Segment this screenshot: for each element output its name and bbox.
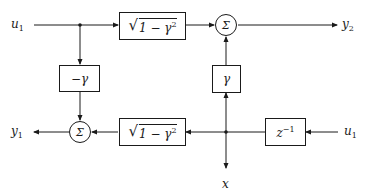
top-gain-block: √ 1 − γ2 xyxy=(119,12,186,40)
output-y1-label: y1 xyxy=(11,125,23,140)
gamma-block: γ xyxy=(212,65,241,93)
radical-sign-icon: √ xyxy=(128,18,138,33)
output-y2-label: y2 xyxy=(342,18,354,33)
neg-gamma-block: −γ xyxy=(59,65,100,92)
branch-point-top xyxy=(78,23,82,27)
output-x-label: x xyxy=(222,178,229,190)
branch-point-bottom xyxy=(224,130,228,134)
sqrt-expression: √ 1 − γ2 xyxy=(128,124,176,141)
radical-sign-icon: √ xyxy=(128,124,138,139)
input-u1-top-label: u1 xyxy=(11,18,24,33)
delay-block: z−1 xyxy=(265,118,306,146)
bottom-gain-block: √ 1 − γ2 xyxy=(119,118,186,146)
input-u1-bottom-label: u1 xyxy=(344,125,357,140)
sigma-icon: Σ xyxy=(222,19,230,32)
sqrt-expression: √ 1 − γ2 xyxy=(128,18,176,35)
sigma-icon: Σ xyxy=(76,126,84,139)
bottom-summing-junction: Σ xyxy=(69,121,91,143)
top-summing-junction: Σ xyxy=(215,14,237,36)
